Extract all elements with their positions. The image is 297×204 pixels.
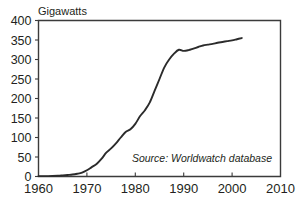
x-tick-label: 1990 (169, 181, 198, 196)
y-tick-label: 100 (11, 131, 32, 145)
x-tick-label: 1980 (121, 181, 150, 196)
y-tick-label: 350 (11, 34, 32, 48)
x-tick-label: 1970 (72, 181, 101, 196)
y-tick-label: 150 (11, 112, 32, 126)
source-annotation: Source: Worldwatch database (132, 152, 272, 164)
x-tick-label: 1960 (24, 181, 53, 196)
x-tick-label: 2000 (218, 181, 247, 196)
x-tick-label: 2010 (266, 181, 295, 196)
chart-background (0, 0, 297, 204)
y-tick-label: 400 (11, 14, 32, 28)
y-tick-label: 50 (18, 151, 32, 165)
chart-figure: Gigawatts 050100150200250300350400 19601… (0, 0, 297, 204)
y-tick-label: 300 (11, 53, 32, 67)
y-tick-label: 200 (11, 92, 32, 106)
y-tick-label: 250 (11, 73, 32, 87)
y-axis-title: Gigawatts (38, 5, 87, 17)
line-chart-canvas: Gigawatts 050100150200250300350400 19601… (0, 0, 297, 204)
